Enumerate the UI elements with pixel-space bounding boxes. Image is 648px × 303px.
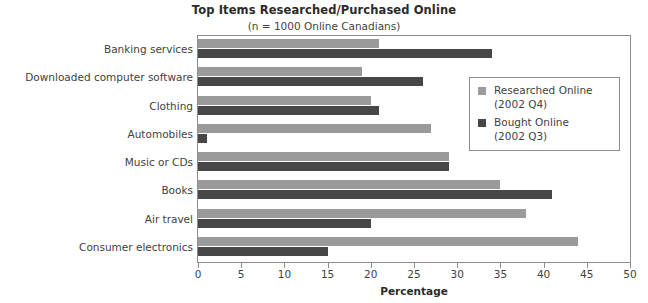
x-axis-tick-label: 15	[321, 268, 334, 280]
x-axis-tick-labels: 05101520253035404550	[198, 268, 630, 284]
x-axis-tick-label: 30	[451, 268, 464, 280]
bar-bought	[198, 162, 449, 171]
bar-researched	[198, 180, 500, 189]
legend-series-name: Researched Online	[494, 84, 612, 98]
legend-swatch-icon	[478, 119, 486, 127]
y-axis-label: Music or CDs	[3, 156, 193, 168]
bar-researched	[198, 209, 526, 218]
bar-group	[198, 234, 630, 262]
bar-researched	[198, 67, 362, 76]
bar-bought	[198, 134, 207, 143]
legend-series-name: Bought Online	[494, 116, 612, 130]
chart-legend: Researched Online(2002 Q4)Bought Online(…	[469, 77, 620, 151]
x-axis-tick-label: 50	[623, 268, 636, 280]
y-axis-label: Air travel	[3, 213, 193, 225]
bar-bought	[198, 190, 552, 199]
bar-group	[198, 36, 630, 64]
y-axis-label: Automobiles	[3, 128, 193, 140]
y-axis-label: Clothing	[3, 100, 193, 112]
x-axis-tick-label: 25	[407, 268, 420, 280]
x-axis-title: Percentage	[198, 285, 630, 297]
y-axis-label: Books	[3, 184, 193, 196]
bar-group	[198, 206, 630, 234]
chart-subtitle: (n = 1000 Online Canadians)	[0, 20, 648, 32]
x-axis-tick-label: 40	[537, 268, 550, 280]
x-axis-tick-label: 45	[580, 268, 593, 280]
bar-researched	[198, 237, 578, 246]
bar-bought	[198, 219, 371, 228]
x-axis-tick-label: 5	[238, 268, 245, 280]
legend-entry: Researched Online(2002 Q4)	[478, 84, 612, 111]
y-axis-label: Consumer electronics	[3, 241, 193, 253]
bar-researched	[198, 96, 371, 105]
bar-researched	[198, 39, 379, 48]
bar-bought	[198, 77, 423, 86]
chart-container: Top Items Researched/Purchased Online (n…	[0, 0, 648, 303]
y-axis-label: Downloaded computer software	[3, 71, 193, 83]
legend-swatch-icon	[478, 87, 486, 95]
x-axis-tick-label: 35	[494, 268, 507, 280]
legend-series-period: (2002 Q3)	[494, 130, 612, 144]
x-axis-tick-label: 20	[364, 268, 377, 280]
x-axis-tick-label: 0	[195, 268, 202, 280]
legend-entry: Bought Online(2002 Q3)	[478, 116, 612, 143]
y-axis-category-labels: Banking servicesDownloaded computer soft…	[0, 36, 193, 262]
x-axis-tick-label: 10	[278, 268, 291, 280]
bar-group	[198, 149, 630, 177]
legend-series-period: (2002 Q4)	[494, 98, 612, 112]
bar-bought	[198, 49, 492, 58]
bar-group	[198, 177, 630, 205]
bar-researched	[198, 152, 449, 161]
bar-bought	[198, 247, 328, 256]
bar-bought	[198, 106, 379, 115]
bar-researched	[198, 124, 431, 133]
y-axis-label: Banking services	[3, 43, 193, 55]
chart-title: Top Items Researched/Purchased Online	[0, 3, 648, 17]
